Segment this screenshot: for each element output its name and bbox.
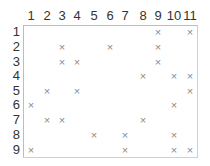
cross-mark-icon: × (28, 100, 34, 111)
cross-mark-icon: × (187, 27, 193, 38)
cross-mark-icon: × (59, 57, 65, 68)
column-header-5: 5 (90, 9, 97, 23)
column-header-11: 11 (183, 9, 197, 23)
row-header-3: 3 (6, 55, 20, 69)
row-header-6: 6 (6, 98, 20, 112)
column-header-4: 4 (73, 9, 80, 23)
column-header-9: 9 (154, 9, 161, 23)
column-header-7: 7 (121, 9, 128, 23)
column-header-8: 8 (139, 9, 146, 23)
cross-mark-icon: × (155, 27, 161, 38)
cross-mark-icon: × (187, 86, 193, 97)
cross-mark-icon: × (122, 130, 128, 141)
row-header-9: 9 (6, 143, 20, 157)
cross-mark-icon: × (171, 130, 177, 141)
row-header-5: 5 (6, 84, 20, 98)
cross-mark-icon: × (44, 115, 50, 126)
cross-mark-icon: × (187, 71, 193, 82)
cross-mark-icon: × (155, 42, 161, 53)
cross-mark-icon: × (140, 71, 146, 82)
row-header-8: 8 (6, 128, 20, 142)
column-header-10: 10 (167, 9, 181, 23)
cross-mark-icon: × (171, 145, 177, 156)
row-header-2: 2 (6, 40, 20, 54)
row-header-4: 4 (6, 69, 20, 83)
cross-mark-icon: × (171, 71, 177, 82)
cross-mark-icon: × (59, 42, 65, 53)
column-header-1: 1 (27, 9, 34, 23)
cross-mark-icon: × (59, 115, 65, 126)
row-header-7: 7 (6, 113, 20, 127)
cross-mark-icon: × (155, 57, 161, 68)
column-header-2: 2 (43, 9, 50, 23)
cross-mark-icon: × (187, 145, 193, 156)
cross-mark-icon: × (74, 86, 80, 97)
column-header-3: 3 (58, 9, 65, 23)
cross-mark-icon: × (91, 130, 97, 141)
cross-mark-icon: × (140, 115, 146, 126)
row-header-1: 1 (6, 25, 20, 39)
cross-mark-icon: × (44, 86, 50, 97)
cross-mark-icon: × (171, 100, 177, 111)
cross-mark-icon: × (122, 145, 128, 156)
cross-mark-icon: × (28, 145, 34, 156)
cross-mark-icon: × (107, 42, 113, 53)
cross-mark-icon: × (74, 57, 80, 68)
column-header-6: 6 (106, 9, 113, 23)
